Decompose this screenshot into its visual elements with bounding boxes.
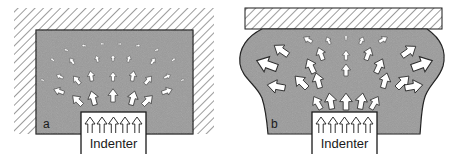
hatched-plate-b bbox=[245, 8, 442, 29]
indenter-label-a: Indenter bbox=[90, 136, 138, 151]
panel-label-b: b bbox=[271, 117, 278, 131]
indenter-label-b: Indenter bbox=[321, 136, 369, 151]
figure: Indenter a bbox=[0, 0, 462, 154]
panel-a: Indenter a bbox=[14, 8, 214, 154]
indenter-a: Indenter bbox=[81, 112, 146, 154]
indenter-b: Indenter bbox=[312, 112, 377, 154]
panel-b: Indenter b bbox=[240, 8, 444, 154]
panel-label-a: a bbox=[43, 117, 50, 131]
